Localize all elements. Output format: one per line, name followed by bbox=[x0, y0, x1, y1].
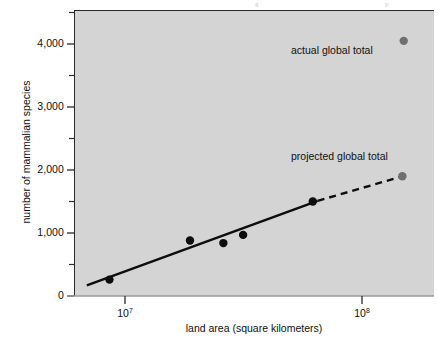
mammal-species-area-chart: g p 01,0002,0003,0004,000 107108 land ar… bbox=[0, 0, 438, 343]
y-tick-label: 2,000 bbox=[6, 163, 64, 175]
x-tick-label: 108 bbox=[354, 307, 370, 319]
x-tick-label: 107 bbox=[117, 307, 133, 319]
y-tick-label: 4,000 bbox=[6, 37, 64, 49]
data-point bbox=[398, 172, 406, 180]
y-axis-tick-labels: 01,0002,0003,0004,000 bbox=[0, 0, 64, 343]
projected-global-total-label: projected global total bbox=[291, 150, 388, 162]
regression-line bbox=[87, 201, 318, 285]
x-axis-ticks bbox=[67, 296, 434, 304]
y-tick-label: 0 bbox=[6, 289, 64, 301]
extrapolation-line bbox=[318, 176, 403, 201]
y-axis-title: number of mammalian species bbox=[20, 52, 32, 252]
data-point bbox=[400, 37, 408, 45]
data-point bbox=[309, 197, 317, 205]
data-point bbox=[219, 239, 227, 247]
data-point bbox=[105, 275, 113, 283]
actual-global-total-label: actual global total bbox=[291, 44, 373, 56]
x-axis-title: land area (square kilometers) bbox=[74, 322, 434, 334]
data-point bbox=[186, 236, 194, 244]
y-tick-label: 3,000 bbox=[6, 100, 64, 112]
data-point bbox=[239, 231, 247, 239]
y-axis-ticks bbox=[67, 13, 74, 297]
y-tick-label: 1,000 bbox=[6, 226, 64, 238]
